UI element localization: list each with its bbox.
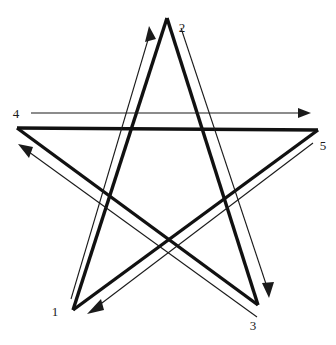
figure-background [0,0,336,345]
vertex-label-2: 2 [179,20,186,35]
vertex-label-5: 5 [320,138,327,153]
figure-root: 1 2 3 4 5 [0,0,336,345]
vertex-label-3: 3 [250,318,257,333]
edge-4-to-5 [17,128,318,130]
vertex-label-1: 1 [52,304,59,319]
vertex-label-4: 4 [13,106,20,121]
pentagram-figure: 1 2 3 4 5 [0,0,336,345]
